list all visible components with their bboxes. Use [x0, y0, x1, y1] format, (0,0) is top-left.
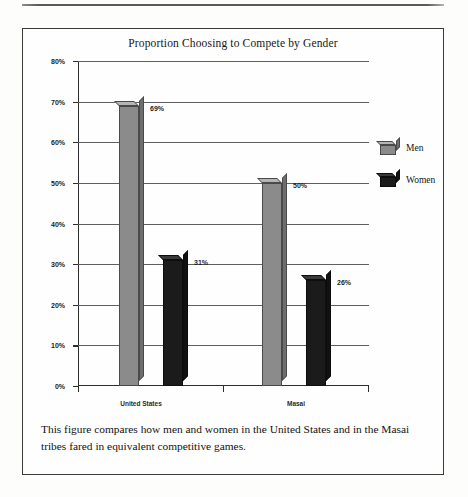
bar-value-label-masai-men: 50% [293, 182, 307, 189]
y-axis-label-10: 10% [51, 342, 65, 349]
bar-united-states-men [119, 106, 139, 386]
bar-value-label-united-states-men: 69% [150, 105, 164, 112]
y-tick-30: 30% [73, 264, 78, 265]
page-top-rule [22, 4, 444, 6]
x-category-label-united-states: United States [120, 400, 162, 407]
legend-swatch-women-icon [380, 177, 396, 187]
legend-swatch-front-face [380, 145, 396, 155]
y-axis-label-20: 20% [51, 301, 65, 308]
bar-front-face [306, 280, 326, 386]
y-axis-label-70: 70% [51, 98, 65, 105]
legend-swatch-front-face [380, 177, 396, 187]
legend-label-men: Men [406, 143, 423, 153]
legend-item-men: Men [380, 141, 442, 173]
bar-value-label-masai-women: 26% [337, 279, 351, 286]
y-axis-label-50: 50% [51, 179, 65, 186]
y-tick-20: 20% [73, 305, 78, 306]
legend-swatch-top-face [376, 173, 396, 177]
y-axis-label-30: 30% [51, 261, 65, 268]
chart-area: Proportion Choosing to Compete by Gender… [23, 29, 443, 409]
bar-value-label-united-states-women: 31% [194, 259, 208, 266]
y-axis-label-40: 40% [51, 220, 65, 227]
x-tick-end [368, 386, 369, 392]
y-axis-label-80: 80% [51, 58, 65, 65]
chart-title: Proportion Choosing to Compete by Gender [23, 37, 443, 49]
bar-side-face [326, 270, 331, 381]
gridline-80 [78, 61, 369, 62]
legend-swatch-side-face [396, 169, 400, 183]
y-tick-10: 10% [73, 345, 78, 346]
bar-top-face [114, 101, 139, 106]
legend-swatch-side-face [396, 137, 400, 151]
bar-front-face [163, 260, 183, 386]
y-tick-80: 80% [73, 61, 78, 62]
legend-swatch-top-face [376, 141, 396, 145]
page-background: Proportion Choosing to Compete by Gender… [0, 0, 468, 497]
bar-side-face [139, 96, 144, 381]
chart-legend: Men Women [380, 141, 442, 205]
y-tick-40: 40% [73, 224, 78, 225]
legend-swatch-men-icon [380, 145, 396, 155]
y-axis-label-0: 0% [55, 383, 65, 390]
x-tick-start [78, 386, 79, 392]
bar-united-states-women [163, 260, 183, 386]
figure-caption: This figure compares how men and women i… [41, 421, 427, 454]
y-tick-50: 50% [73, 183, 78, 184]
y-tick-60: 60% [73, 142, 78, 143]
y-axis-label-60: 60% [51, 139, 65, 146]
bar-side-face [183, 250, 188, 381]
bar-front-face [119, 106, 139, 386]
bar-front-face [262, 183, 282, 386]
legend-item-women: Women [380, 173, 442, 205]
legend-label-women: Women [406, 175, 435, 185]
bar-side-face [282, 173, 287, 381]
x-category-label-masai: Masai [287, 400, 305, 407]
figure-frame: Proportion Choosing to Compete by Gender… [22, 28, 444, 475]
bar-masai-men [262, 183, 282, 386]
bar-top-face [257, 178, 282, 183]
plot-area: 80% 70% 60% 50% 40% [78, 61, 369, 386]
bar-masai-women [306, 280, 326, 386]
x-tick-mid [223, 386, 224, 392]
bar-top-face [158, 255, 183, 260]
y-tick-70: 70% [73, 102, 78, 103]
bar-top-face [301, 275, 326, 280]
